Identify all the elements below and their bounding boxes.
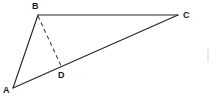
segment-ac: [13, 15, 178, 88]
segment-ab: [13, 15, 38, 88]
segment-bd-dashed: [38, 16, 62, 68]
geometry-figure: A B C D: [0, 0, 216, 99]
vertex-label-d: D: [58, 71, 65, 80]
vertex-label-c: C: [183, 11, 190, 20]
vertex-label-a: A: [3, 86, 10, 95]
vertex-label-b: B: [32, 2, 39, 11]
